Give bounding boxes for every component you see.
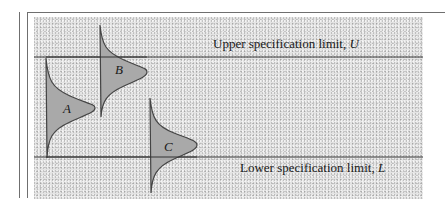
upper-limit-label: Upper specification limit, U	[213, 36, 359, 52]
upper-limit-symbol: U	[349, 36, 358, 51]
lower-limit-symbol: L	[378, 160, 385, 175]
lower-limit-label: Lower specification limit, L	[240, 160, 385, 176]
curve-a-label: A	[63, 101, 71, 117]
distribution-curve-c	[150, 98, 197, 193]
curve-c-label: C	[164, 139, 173, 155]
curve-b-label: B	[115, 62, 123, 78]
distribution-curve-b	[100, 25, 147, 117]
